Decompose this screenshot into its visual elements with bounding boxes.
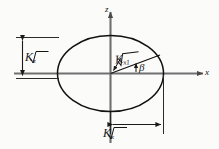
- vertical-dimension-group: [16, 38, 59, 79]
- angle-beta-label: β: [139, 62, 144, 73]
- axis-lines: [14, 12, 203, 143]
- figure-container: z x Kz Kx Kx1 β: [0, 0, 219, 149]
- kz-variable: K: [25, 50, 33, 64]
- horizontal-dimension-label: Kx: [103, 127, 114, 141]
- kx-subscript: x: [111, 133, 114, 141]
- vertical-dimension-label: Kz: [25, 51, 36, 65]
- z-axis-label: z: [105, 5, 109, 14]
- radius-vector-label: Kx1: [114, 52, 130, 68]
- kx-variable: K: [103, 126, 111, 140]
- horizontal-dimension-group: [111, 75, 164, 134]
- x-axis-label: x: [205, 68, 209, 77]
- kz-subscript: z: [33, 57, 36, 65]
- kx1-subscript: x1: [123, 58, 130, 67]
